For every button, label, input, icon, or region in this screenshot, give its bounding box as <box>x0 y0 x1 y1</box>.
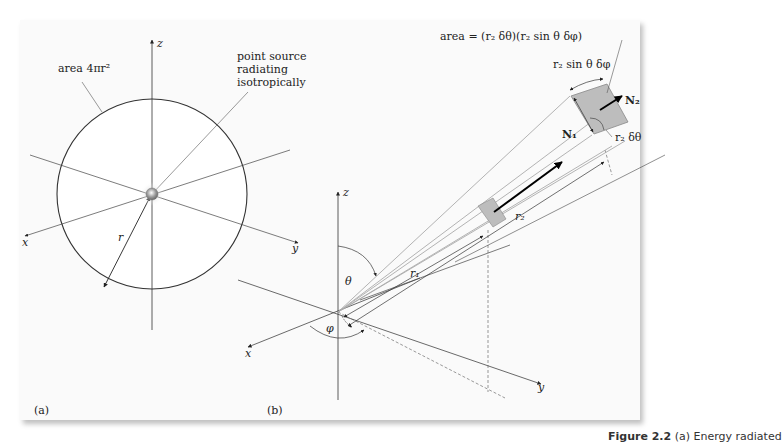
y-axis-b <box>238 280 541 384</box>
radius-label: r <box>118 231 124 244</box>
y-label-a: y <box>291 242 299 255</box>
phi-label: φ <box>326 322 334 335</box>
area-leader <box>82 82 102 112</box>
n2-label: N₂ <box>625 94 640 107</box>
x-label-a: x <box>22 236 29 249</box>
area-label-a: area 4πr² <box>58 62 110 75</box>
source-label-line3: isotropically <box>237 76 306 89</box>
z-label-a: z <box>156 37 163 50</box>
figure-caption: Figure 2.2 (a) Energy radiated <box>608 430 782 443</box>
side-length-label: r₂ δθ <box>615 131 642 144</box>
source-label-line2: radiating <box>237 63 288 76</box>
projection-line <box>338 312 505 398</box>
x-axis-b <box>248 278 420 347</box>
phi-arc <box>310 326 364 338</box>
arc-length-label: r₂ sin θ δφ <box>553 58 611 71</box>
panel-b-label: (b) <box>267 404 283 417</box>
caption-label: Figure 2.2 <box>608 430 671 443</box>
far-patch <box>571 84 628 134</box>
panel-a: area 4πr² point source radiating isotrop… <box>22 37 306 417</box>
area-formula: area = (r₂ δθ)(r₂ sin θ δφ) <box>440 30 582 43</box>
near-patch <box>478 198 506 227</box>
r1-label: r₁ <box>410 267 420 280</box>
source-label-line1: point source <box>237 50 306 63</box>
z-label-b: z <box>342 186 349 199</box>
r2-label: r₂ <box>515 210 525 223</box>
y-label-b: y <box>537 381 545 394</box>
x-label-b: x <box>245 347 252 360</box>
theta-label: θ <box>345 275 352 288</box>
point-source-icon <box>146 188 158 200</box>
r2-arrow <box>348 162 604 326</box>
panel-a-label: (a) <box>34 404 49 417</box>
caption-text: (a) Energy radiated <box>675 430 782 443</box>
theta-arc <box>338 246 376 276</box>
n1-label: N₁ <box>562 128 577 141</box>
